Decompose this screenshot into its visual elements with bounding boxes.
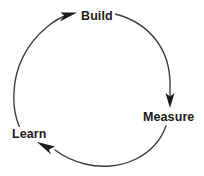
- edge-measure-to-learn: [55, 126, 166, 166]
- node-label-build: Build: [79, 9, 115, 24]
- arrowhead-into-learn: [37, 142, 55, 155]
- node-label-measure: Measure: [141, 110, 196, 125]
- edge-learn-to-build: [14, 15, 68, 141]
- diagram-canvas: Build Measure Learn: [0, 0, 204, 176]
- edge-build-to-measure: [115, 14, 170, 96]
- cycle-loop-graphic: [0, 0, 204, 176]
- node-label-learn: Learn: [10, 127, 49, 142]
